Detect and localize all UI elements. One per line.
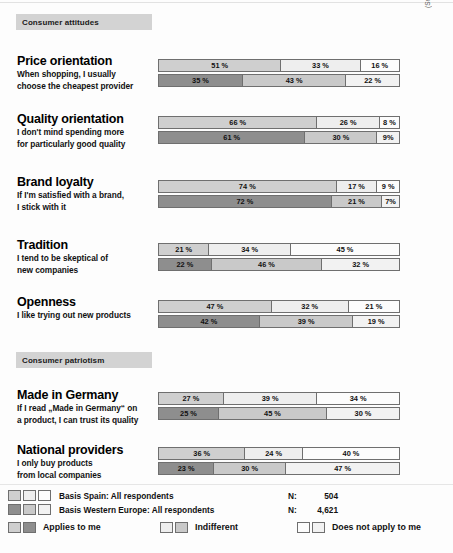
legend-key-does-not-apply: Does not apply to me	[297, 520, 421, 534]
bar-segment: 30 %	[327, 408, 399, 419]
item-subtitle-line: a product, I can trust its quality	[17, 415, 157, 426]
legend-swatch-spain-applies	[8, 490, 21, 501]
legend-basis-label-western-europe: Basis Western Europe: All respondents	[59, 505, 214, 515]
item-subtitle-line: I stick with it	[17, 202, 157, 213]
legend-key-label-indifferent: Indifferent	[195, 522, 238, 532]
legend-n-label-western-europe: N:	[288, 505, 304, 515]
legend-swatch-spain-does-not-apply	[38, 490, 51, 501]
bar-segment: 32 %	[322, 259, 399, 270]
legend-n-value-spain: 504	[304, 491, 338, 501]
item-title: Price orientation	[17, 54, 157, 68]
legend-n-block: N: 504 N: 4,621	[288, 489, 338, 517]
bar-row-western-europe: 61 %30 %9%	[158, 131, 400, 144]
bar-segment: 30 %	[214, 463, 286, 474]
item-subtitle-line: When shopping, I usually	[17, 69, 157, 80]
bar-segment: 72 %	[159, 196, 332, 207]
item-subtitle-line: I like trying out new products	[17, 310, 157, 321]
item-label-block: Made in GermanyIf I read „Made in German…	[17, 388, 157, 425]
section-band: Consumer patriotism	[16, 352, 152, 368]
item-subtitle-line: for particularly good quality	[17, 139, 157, 150]
legend-basis-label-spain: Basis Spain: All respondents	[59, 491, 174, 501]
item-subtitle-line: If I'm satisfied with a brand,	[17, 190, 157, 201]
bar-segment: 47 %	[286, 463, 399, 474]
bar-segment: 25 %	[159, 408, 219, 419]
item-subtitle-line: I don't mind spending more	[17, 127, 157, 138]
bar-segment: 34 %	[317, 393, 399, 404]
legend-key-indifferent: Indifferent	[160, 520, 238, 534]
bar-segment: 19 %	[353, 316, 399, 327]
bar-row-western-europe: 42 %39 %19 %	[158, 315, 400, 328]
item-label-block: Brand loyaltyIf I'm satisfied with a bra…	[17, 175, 157, 212]
bar-group: 47 %32 %21 %42 %39 %19 %	[158, 300, 400, 330]
bar-row-spain: 47 %32 %21 %	[158, 300, 400, 313]
item-subtitle-line: I only buy products	[17, 458, 157, 469]
bar-segment: 26 %	[317, 117, 379, 128]
item-subtitle-line: from local companies	[17, 470, 157, 481]
item-title: Openness	[17, 295, 157, 309]
item-subtitle-line: new companies	[17, 265, 157, 276]
bar-segment: 66 %	[159, 117, 317, 128]
bar-segment: 23 %	[159, 463, 214, 474]
legend-n-label-spain: N:	[288, 491, 304, 501]
bar-segment: 27 %	[159, 393, 224, 404]
legend-key-swatch-indifferent-dark	[175, 522, 188, 533]
item-title: Quality orientation	[17, 112, 157, 126]
bar-row-western-europe: 35 %43 %22 %	[158, 74, 400, 87]
bar-row-spain: 21 %34 %45 %	[158, 243, 400, 256]
item-title: National providers	[17, 443, 157, 457]
bar-segment: 33 %	[281, 60, 360, 71]
bar-group: 74 %17 %9 %72 %21 %7%	[158, 180, 400, 210]
bar-row-spain: 27 %39 %34 %	[158, 392, 400, 405]
legend-swatch-spain-indifferent	[23, 490, 36, 501]
bar-segment: 61 %	[159, 132, 305, 143]
item-label-block: National providersI only buy productsfro…	[17, 443, 157, 480]
bar-segment: 45 %	[219, 408, 327, 419]
bar-segment: 32 %	[272, 301, 349, 312]
bar-row-spain: 74 %17 %9 %	[158, 180, 400, 193]
item-label-block: Price orientationWhen shopping, I usuall…	[17, 54, 157, 91]
section-band-label: Consumer attitudes	[22, 18, 99, 27]
item-subtitle-line: I tend to be skeptical of	[17, 253, 157, 264]
legend-swatch-we-does-not-apply	[38, 504, 51, 515]
legend-key-swatch-applies-light	[8, 522, 21, 533]
bar-group: 27 %39 %34 %25 %45 %30 %	[158, 392, 400, 422]
bar-segment: 43 %	[243, 75, 346, 86]
bar-row-spain: 36 %24 %40 %	[158, 447, 400, 460]
bar-segment: 17 %	[337, 181, 378, 192]
bar-segment: 39 %	[224, 393, 318, 404]
item-subtitle-line: choose the cheapest provider	[17, 81, 157, 92]
bar-segment: 21 %	[332, 196, 382, 207]
bar-segment: 8 %	[380, 117, 399, 128]
top-divider	[0, 2, 453, 3]
bar-group: 21 %34 %45 %22 %46 %32 %	[158, 243, 400, 273]
item-label-block: TraditionI tend to be skeptical ofnew co…	[17, 238, 157, 275]
legend-basis-block: Basis Spain: All respondents Basis Weste…	[8, 489, 214, 517]
bar-segment: 46 %	[212, 259, 322, 270]
bar-segment: 35 %	[159, 75, 243, 86]
legend-key-swatch-applies-dark	[23, 522, 36, 533]
bar-segment: 7%	[382, 196, 399, 207]
bar-segment: 9%	[377, 132, 399, 143]
footer-divider	[0, 484, 453, 485]
source-credit: (Source: TNS Infratest/MRSC, 2005)	[424, 0, 438, 8]
legend-swatch-we-applies	[8, 504, 21, 515]
bar-segment: 9 %	[377, 181, 399, 192]
bar-segment: 34 %	[209, 244, 291, 255]
bar-row-spain: 51 %33 %16 %	[158, 59, 400, 72]
bar-segment: 24 %	[245, 448, 303, 459]
legend-key-swatch-indifferent-light	[160, 522, 173, 533]
bar-segment: 39 %	[260, 316, 354, 327]
bar-segment: 22 %	[346, 75, 399, 86]
bar-segment: 21 %	[349, 301, 399, 312]
bar-row-western-europe: 23 %30 %47 %	[158, 462, 400, 475]
section-band: Consumer attitudes	[16, 14, 152, 30]
legend-key-swatch-does-not-apply-light	[297, 522, 310, 533]
bar-segment: 30 %	[305, 132, 377, 143]
legend-basis-row-western-europe: Basis Western Europe: All respondents	[8, 503, 214, 516]
item-title: Brand loyalty	[17, 175, 157, 189]
bar-segment: 16 %	[361, 60, 399, 71]
bar-segment: 22 %	[159, 259, 212, 270]
bar-row-spain: 66 %26 %8 %	[158, 116, 400, 129]
bar-group: 66 %26 %8 %61 %30 %9%	[158, 116, 400, 146]
bar-segment: 21 %	[159, 244, 209, 255]
